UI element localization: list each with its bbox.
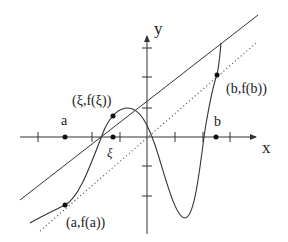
point-fa <box>63 203 68 208</box>
x-axis <box>20 132 256 142</box>
point-b-on-axis <box>214 135 219 140</box>
point-fxi <box>111 114 116 119</box>
y-axis-label: y <box>154 19 163 38</box>
label-point-a: (a,f(a)) <box>66 215 106 231</box>
label-point-b: (b,f(b)) <box>226 81 267 97</box>
mvt-diagram: y x a b ξ (ξ,f(ξ)) (b,f(b)) (a,f(a)) <box>0 0 288 242</box>
x-axis-label: x <box>262 138 271 157</box>
label-a: a <box>61 113 68 128</box>
point-fb <box>215 73 220 78</box>
point-a-on-axis <box>63 135 68 140</box>
label-point-xi: (ξ,f(ξ)) <box>72 93 112 109</box>
label-xi: ξ <box>107 145 113 160</box>
tangent-line <box>20 15 258 200</box>
label-b: b <box>214 114 221 129</box>
function-curve <box>30 43 221 223</box>
y-axis <box>142 36 152 234</box>
point-xi-on-axis <box>111 135 116 140</box>
